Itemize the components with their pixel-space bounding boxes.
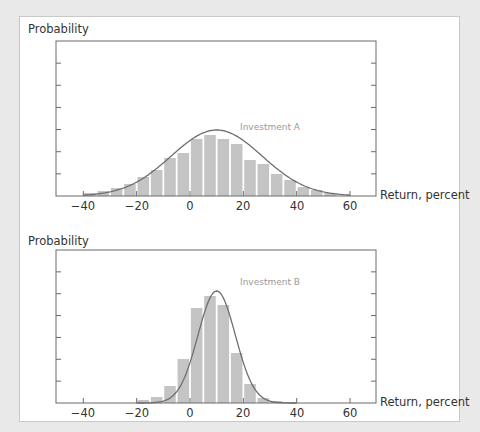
distribution-curve: [83, 130, 350, 195]
bar: [271, 174, 283, 196]
bar: [164, 158, 176, 196]
bar: [231, 144, 243, 196]
bar: [204, 135, 216, 196]
plot-frame: [56, 250, 376, 403]
bar: [284, 180, 296, 196]
bar: [244, 160, 256, 196]
plot-frame: [56, 41, 376, 196]
distribution-curve: [137, 291, 297, 403]
bar: [231, 353, 243, 403]
bar: [138, 177, 150, 196]
bar: [218, 139, 230, 196]
bar: [218, 305, 230, 403]
bar: [204, 296, 216, 403]
bar: [298, 187, 310, 196]
series-label: Investment A: [240, 122, 301, 132]
bar: [191, 139, 203, 196]
bar: [258, 164, 270, 196]
series-label: Investment B: [240, 277, 300, 287]
bar: [151, 170, 163, 196]
bar: [178, 153, 190, 196]
chart-canvas: Investment AInvestment B: [0, 0, 480, 432]
